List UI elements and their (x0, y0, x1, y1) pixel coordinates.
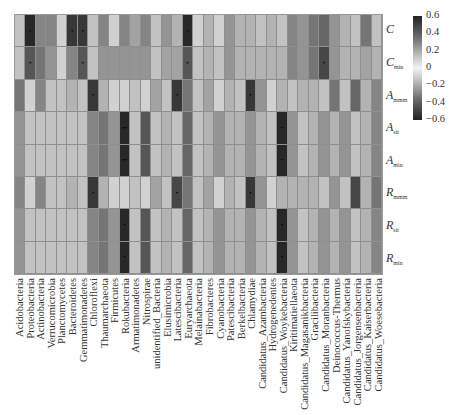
heatmap-cell (151, 177, 161, 209)
heatmap-cell (109, 242, 119, 274)
heatmap-cell (15, 242, 25, 274)
heatmap-cell (372, 209, 382, 241)
heatmap-cell (309, 80, 319, 112)
heatmap-cell (99, 242, 109, 274)
heatmap-cell: • (277, 209, 287, 241)
heatmap-cell (99, 209, 109, 241)
heatmap-cell (36, 80, 46, 112)
heatmap-cell (340, 47, 350, 79)
column-label: Chlamydiae (246, 278, 257, 415)
heatmap-cell (277, 47, 287, 79)
heatmap-cell (277, 80, 287, 112)
heatmap-cell (225, 47, 235, 79)
column-label: Melainabacteria (193, 278, 204, 415)
heatmap-grid: •••••••••••••••••••••••• (14, 14, 383, 275)
heatmap-cell (340, 242, 350, 274)
heatmap-cell: • (88, 177, 98, 209)
heatmap-cell (298, 145, 308, 177)
column-label: Gemmatimonadetes (77, 278, 88, 415)
heatmap-cell (298, 177, 308, 209)
heatmap-cell (162, 112, 172, 144)
significance-marker: • (281, 157, 283, 164)
heatmap-cell (67, 47, 77, 79)
colorbar-tick: 0.6 (426, 9, 439, 20)
heatmap-cell (130, 145, 141, 177)
heatmap-cell (88, 145, 98, 177)
heatmap-cell (225, 145, 235, 177)
heatmap-cell (36, 47, 46, 79)
column-label: Planctomycetes (56, 278, 67, 415)
column-label: Patescibacteria (225, 278, 236, 415)
heatmap-cell (57, 80, 67, 112)
heatmap-cell (277, 15, 287, 47)
heatmap-cell (319, 209, 329, 241)
significance-marker: • (323, 60, 325, 67)
heatmap-cell: • (120, 242, 130, 274)
significance-marker: • (249, 92, 251, 99)
heatmap-cell: • (277, 242, 287, 274)
column-label: Candidatus_Woesebacteria (372, 278, 383, 415)
column-label: Candidatus_Yanofskybacteria (341, 278, 352, 415)
heatmap-cell (183, 145, 193, 177)
heatmap-cell (172, 145, 182, 177)
heatmap-cell (288, 177, 298, 209)
heatmap-cell (256, 177, 267, 209)
heatmap-cell (330, 145, 340, 177)
column-label: Proteobacteria (25, 278, 36, 415)
significance-marker: • (186, 27, 188, 34)
heatmap-cell (109, 209, 119, 241)
heatmap-cell (172, 209, 182, 241)
heatmap-cell (225, 177, 235, 209)
heatmap-cell (361, 112, 371, 144)
heatmap-cell (151, 80, 161, 112)
heatmap-cell (183, 112, 193, 144)
heatmap-cell (46, 209, 56, 241)
heatmap-cell (15, 47, 25, 79)
heatmap-cell (288, 112, 298, 144)
heatmap-cell (267, 145, 277, 177)
heatmap-cell (235, 112, 245, 144)
colorbar-tick: 0 (426, 61, 431, 72)
heatmap-cell (319, 145, 329, 177)
column-label: Fibrobacteres (204, 278, 215, 415)
heatmap-cell (235, 145, 245, 177)
heatmap-cell (172, 47, 182, 79)
colorbar-tick: 0.2 (426, 44, 439, 55)
heatmap-cell (151, 209, 161, 241)
heatmap-cell (288, 145, 298, 177)
heatmap-cell (151, 15, 161, 47)
heatmap-cell (340, 177, 350, 209)
heatmap-cell: • (78, 47, 88, 79)
heatmap-cell: •• (120, 145, 130, 177)
heatmap-cell (57, 145, 67, 177)
heatmap-cell (361, 242, 371, 274)
heatmap-cell (319, 242, 329, 274)
heatmap-cell (46, 80, 56, 112)
heatmap-cell (256, 80, 267, 112)
heatmap-cell (309, 15, 319, 47)
heatmap-cell (130, 112, 141, 144)
significance-marker: • (29, 60, 31, 67)
heatmap-cell (309, 47, 319, 79)
heatmap-cell (330, 242, 340, 274)
heatmap-cell: • (120, 209, 130, 241)
heatmap-cell (109, 112, 119, 144)
heatmap-cell (78, 177, 88, 209)
heatmap-cell (36, 209, 46, 241)
heatmap-cell (57, 47, 67, 79)
heatmap-cell (204, 242, 214, 274)
heatmap-cell (309, 145, 319, 177)
heatmap-cell: • (25, 15, 35, 47)
heatmap-cell (130, 177, 141, 209)
heatmap-cell (57, 112, 67, 144)
heatmap-cell (109, 15, 119, 47)
heatmap-cell (88, 112, 98, 144)
significance-marker: • (281, 221, 283, 228)
heatmap-cell (214, 209, 224, 241)
heatmap-cell (151, 112, 161, 144)
significance-marker: • (92, 189, 94, 196)
heatmap-cell (204, 15, 214, 47)
heatmap-cell (372, 242, 382, 274)
heatmap-cell (67, 145, 77, 177)
heatmap-cell (15, 15, 25, 47)
